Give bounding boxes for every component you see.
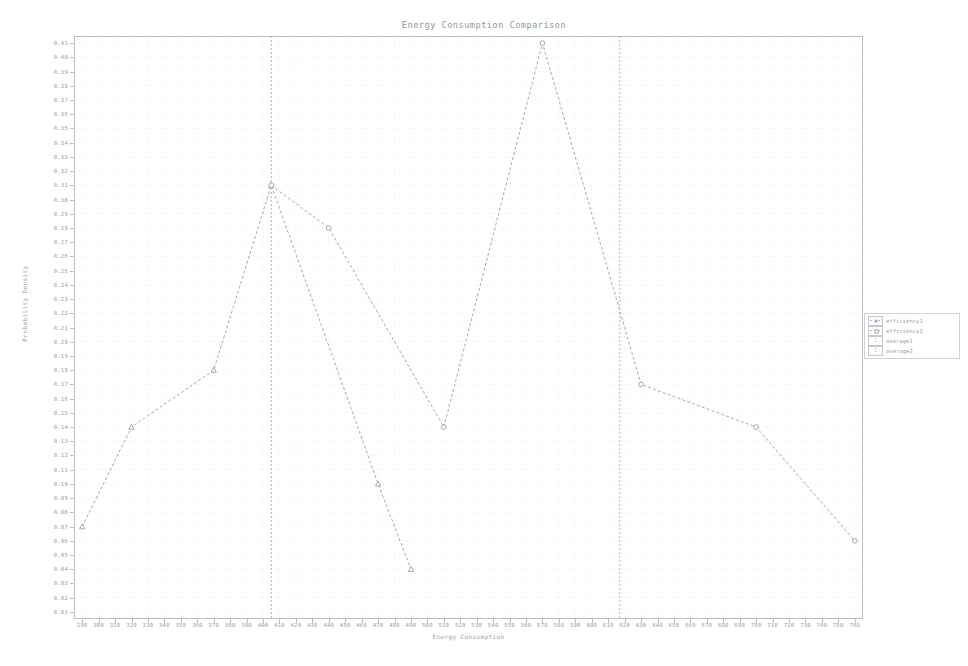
legend-label: average2 [886, 348, 913, 354]
grid-lines [74, 36, 863, 619]
x-axis-label: Energy Consumption [74, 633, 863, 640]
data-point-efficiency1 [375, 481, 380, 486]
data-point-efficiency2 [852, 538, 857, 543]
legend-item-average2[interactable]: average2 [868, 346, 956, 356]
legend-label: efficiency2 [886, 328, 923, 334]
legend-swatch-triangle-icon [868, 316, 883, 326]
legend-swatch-vline-icon [868, 346, 883, 356]
data-point-efficiency1 [129, 424, 134, 429]
chart-canvas: Energy Consumption Comparison 0.410.400.… [0, 0, 968, 666]
legend-label: average1 [886, 338, 913, 344]
data-point-efficiency1 [408, 566, 413, 571]
legend-swatch-vline-icon [868, 336, 883, 346]
series-line-efficiency2 [271, 43, 855, 541]
chart-plot-svg [0, 0, 968, 666]
legend-label: efficiency1 [886, 318, 923, 324]
data-point-efficiency2 [326, 226, 331, 231]
data-point-efficiency2 [754, 425, 759, 430]
legend-swatch-circle-icon [868, 326, 883, 336]
legend-item-efficiency1[interactable]: efficiency1 [868, 316, 956, 326]
data-point-efficiency2 [269, 183, 274, 188]
legend-item-efficiency2[interactable]: efficiency2 [868, 326, 956, 336]
data-point-efficiency2 [639, 382, 644, 387]
chart-legend: efficiency1efficiency2average1average2 [864, 313, 960, 359]
data-point-efficiency2 [441, 425, 446, 430]
legend-item-average1[interactable]: average1 [868, 336, 956, 346]
y-axis-label: Probability Density [21, 234, 28, 374]
data-point-efficiency2 [540, 41, 545, 46]
data-point-efficiency1 [80, 524, 85, 529]
